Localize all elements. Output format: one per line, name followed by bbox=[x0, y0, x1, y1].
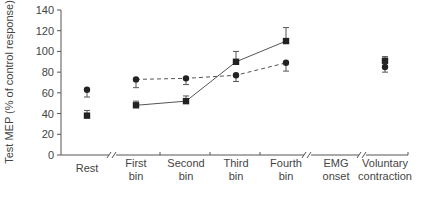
y-tick-label: 60 bbox=[42, 87, 54, 99]
x-category-label: Thirdbin bbox=[223, 157, 248, 182]
data-point-circle bbox=[233, 72, 239, 78]
series-circle bbox=[84, 60, 388, 97]
axis-break-mark bbox=[112, 152, 116, 158]
y-tick-label: 100 bbox=[36, 45, 54, 57]
y-tick-label: 140 bbox=[36, 4, 54, 16]
data-point-square bbox=[382, 58, 388, 64]
y-axis: 020406080100120140 bbox=[36, 4, 61, 161]
y-tick-label: 40 bbox=[42, 108, 54, 120]
x-category-label: Firstbin bbox=[125, 157, 146, 182]
y-tick-label: 120 bbox=[36, 25, 54, 37]
x-category-label: EMGonset bbox=[323, 157, 350, 182]
data-point-circle bbox=[183, 75, 189, 81]
y-tick-label: 80 bbox=[42, 66, 54, 78]
x-category-label: Voluntarycontraction bbox=[358, 157, 412, 182]
labels-layer: RestFirstbinSecondbinThirdbinFourthbinEM… bbox=[76, 157, 412, 182]
x-category-label: Secondbin bbox=[167, 157, 204, 182]
x-category-label: Fourthbin bbox=[270, 157, 302, 182]
data-point-circle bbox=[382, 64, 388, 70]
data-point-square bbox=[133, 102, 139, 108]
data-point-square bbox=[84, 112, 90, 118]
axis-break-mark bbox=[307, 152, 311, 158]
y-tick-label: 20 bbox=[42, 128, 54, 140]
data-point-square bbox=[283, 38, 289, 44]
data-point-circle bbox=[133, 76, 139, 82]
y-tick-label: 0 bbox=[48, 149, 54, 161]
series-layer bbox=[84, 28, 388, 119]
data-point-square bbox=[233, 59, 239, 65]
x-category-label: Rest bbox=[76, 162, 99, 174]
data-point-circle bbox=[283, 60, 289, 66]
data-point-circle bbox=[84, 87, 90, 93]
data-point-square bbox=[183, 98, 189, 104]
chart: 020406080100120140 RestFirstbinSecondbin… bbox=[0, 0, 426, 197]
y-axis-title: Test MEP (% of control response) bbox=[3, 0, 15, 164]
